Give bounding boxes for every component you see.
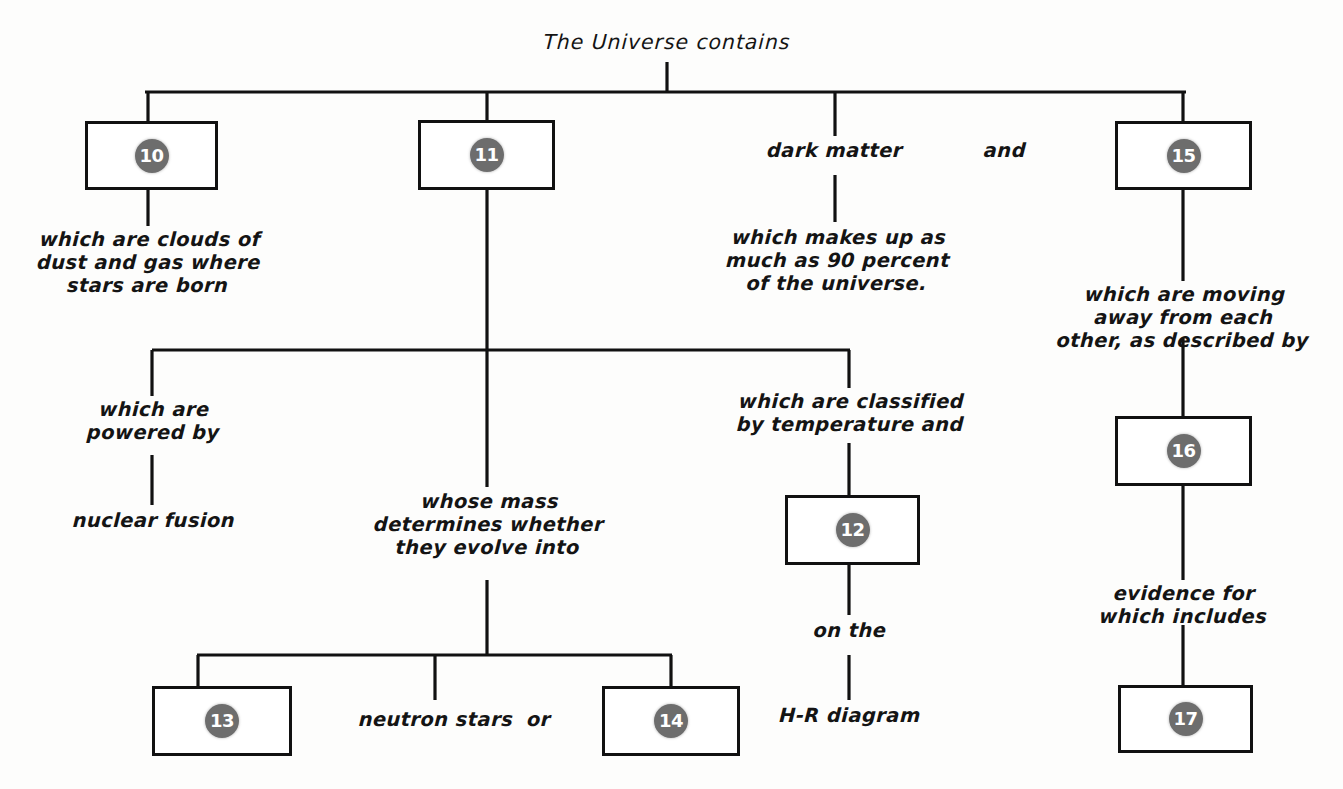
box-10[interactable]: 10	[85, 121, 218, 190]
box-14[interactable]: 14	[602, 686, 740, 756]
box-13[interactable]: 13	[152, 686, 292, 756]
box-17[interactable]: 17	[1118, 685, 1253, 753]
box-16[interactable]: 16	[1115, 416, 1252, 486]
box-11[interactable]: 11	[418, 120, 555, 190]
label-powered-by: which are powered by	[61, 398, 247, 444]
label-dark-matter: dark matter	[734, 139, 935, 162]
concept-map-canvas: The Universe contains 10 11 15 12 16 13 …	[0, 0, 1343, 789]
label-and: and	[959, 139, 1050, 162]
label-or: or	[494, 708, 583, 731]
connector-lines	[0, 0, 1343, 789]
box-number-badge: 14	[654, 704, 688, 738]
box-number-badge: 13	[205, 704, 239, 738]
label-classified-by: which are classified by temperature and	[726, 390, 976, 436]
box-15[interactable]: 15	[1115, 121, 1252, 190]
label-dark-matter-description: which makes up as much as 90 percent of …	[713, 226, 963, 295]
label-galaxies-description: which are moving away from each other, a…	[1047, 283, 1321, 352]
box-number-badge: 10	[135, 139, 169, 173]
box-number-badge: 16	[1167, 434, 1201, 468]
label-nuclear-fusion: nuclear fusion	[61, 509, 246, 532]
label-nebulae-description: which are clouds of dust and gas where s…	[22, 228, 276, 297]
box-number-badge: 17	[1169, 702, 1203, 736]
box-12[interactable]: 12	[785, 495, 920, 565]
label-whose-mass: whose mass determines whether they evolv…	[370, 490, 608, 559]
label-on-the: on the	[793, 619, 906, 642]
box-number-badge: 12	[836, 513, 870, 547]
label-evidence-for: evidence for which includes	[1092, 582, 1276, 628]
box-number-badge: 15	[1167, 139, 1201, 173]
page-title: The Universe contains	[516, 30, 817, 54]
label-hr-diagram: H-R diagram	[758, 704, 941, 727]
box-number-badge: 11	[470, 138, 504, 172]
